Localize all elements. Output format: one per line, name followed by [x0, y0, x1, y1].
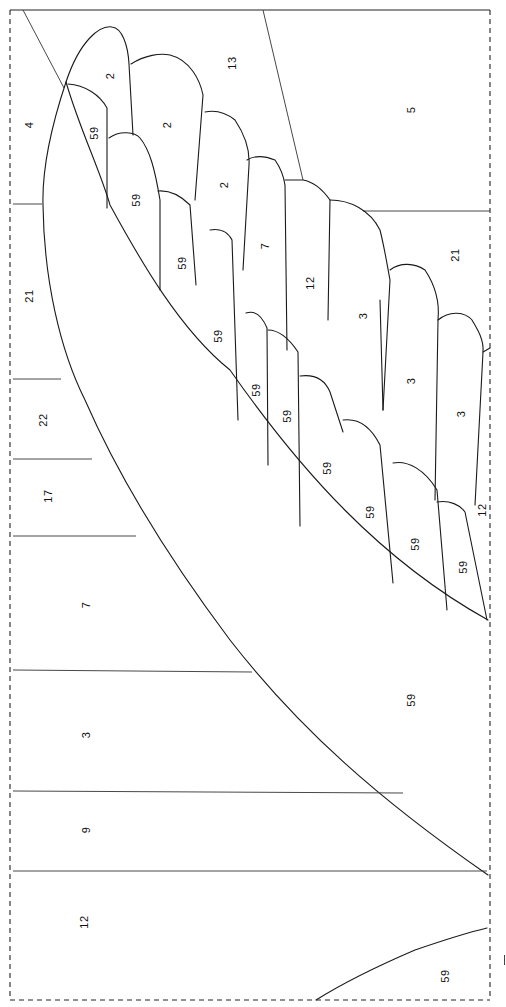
region-label-3: 3: [80, 732, 92, 739]
region-label-59: 59: [212, 329, 224, 342]
region-label-59: 59: [281, 409, 293, 422]
region-label-17: 17: [42, 489, 54, 502]
region-label-59: 59: [364, 505, 376, 518]
region-label-21: 21: [23, 289, 35, 302]
region-label-5: 5: [405, 107, 417, 114]
region-label-21: 21: [449, 248, 461, 261]
region-label-22: 22: [37, 413, 49, 426]
region-label-3: 3: [405, 378, 417, 385]
region-label-12: 12: [78, 915, 90, 928]
region-label-9: 9: [80, 827, 92, 834]
pattern-diagram: 4 2 13 5 59 2 59 2 21 59 7 12 21 3 59 59…: [0, 0, 506, 1007]
region-label-12: 12: [304, 276, 316, 289]
region-label-59: 59: [321, 461, 333, 474]
region-label-59: 59: [88, 126, 100, 139]
region-label-12: 12: [476, 503, 488, 516]
region-label-2: 2: [161, 122, 173, 129]
region-label-59: 59: [457, 560, 469, 573]
pattern-lines: [0, 0, 506, 1007]
region-label-2: 2: [218, 182, 230, 189]
region-label-59: 59: [130, 193, 142, 206]
region-label-59: 59: [250, 383, 262, 396]
region-label-7: 7: [80, 602, 92, 609]
bottom-curve: [316, 928, 487, 1000]
region-label-2: 2: [104, 73, 116, 80]
region-label-3: 3: [357, 313, 369, 320]
margin-mark: [504, 955, 505, 965]
region-label-7: 7: [259, 243, 271, 250]
region-label-59: 59: [439, 969, 451, 982]
region-label-3: 3: [455, 411, 467, 418]
region-label-59: 59: [405, 693, 417, 706]
region-label-59: 59: [176, 256, 188, 269]
band-outer: [43, 82, 488, 875]
region-label-59: 59: [409, 537, 421, 550]
region-label-13: 13: [226, 56, 238, 69]
region-label-4: 4: [23, 122, 35, 129]
